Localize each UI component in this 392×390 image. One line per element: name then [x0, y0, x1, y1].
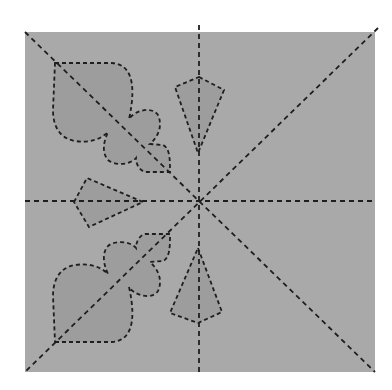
paper-cutting-diagram — [0, 0, 392, 390]
diagram-canvas — [0, 0, 392, 390]
